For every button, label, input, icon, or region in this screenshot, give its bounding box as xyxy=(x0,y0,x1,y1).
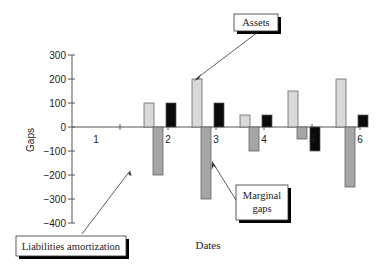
callout-assets: Assets xyxy=(194,14,281,81)
x-category-label: 4 xyxy=(261,134,267,145)
bar-marginal-gaps-4 xyxy=(262,115,272,127)
callout-marginal-arrowhead xyxy=(212,161,217,170)
x-category-label: 2 xyxy=(165,134,171,145)
y-axis: 3002001000−100−200−300−400 xyxy=(43,50,75,229)
bar-liabilities-amortization-4 xyxy=(249,127,259,151)
callout-marginal-text-line1: Marginal xyxy=(243,190,281,201)
callout-liabilities-text: Liabilities amortization xyxy=(22,241,121,252)
gaps-bar-chart: 3002001000−100−200−300−400 123456 Gaps D… xyxy=(0,0,378,274)
bar-assets-2 xyxy=(144,103,154,127)
bar-liabilities-amortization-2 xyxy=(153,127,163,175)
callout-assets-text: Assets xyxy=(242,17,269,28)
bar-assets-6 xyxy=(336,79,346,127)
y-tick-label: 300 xyxy=(49,50,66,61)
bar-marginal-gaps-3 xyxy=(214,103,224,127)
bar-liabilities-amortization-5 xyxy=(297,127,307,139)
callout-marginal-gaps: Marginal gaps xyxy=(212,161,292,223)
y-tick-label: −200 xyxy=(43,170,66,181)
bar-liabilities-amortization-3 xyxy=(201,127,211,199)
y-tick-label: 200 xyxy=(49,74,66,85)
callout-liabilities-arrow xyxy=(82,172,129,234)
callout-marginal-text-line2: gaps xyxy=(252,203,271,214)
callout-liabilities: Liabilities amortization xyxy=(16,170,132,259)
callout-marginal-arrow xyxy=(213,163,236,200)
x-category-label: 3 xyxy=(213,134,219,145)
bar-marginal-gaps-2 xyxy=(166,103,176,127)
bar-marginal-gaps-6 xyxy=(358,115,368,127)
y-tick-label: −300 xyxy=(43,194,66,205)
y-tick-label: 100 xyxy=(49,98,66,109)
category-labels: 123456 xyxy=(93,134,363,145)
bar-assets-4 xyxy=(240,115,250,127)
y-tick-label: −400 xyxy=(43,218,66,229)
x-category-label: 6 xyxy=(357,134,363,145)
x-category-label: 5 xyxy=(309,134,315,145)
bars xyxy=(144,79,368,199)
bar-assets-3 xyxy=(192,79,202,127)
x-category-label: 1 xyxy=(93,134,99,145)
callout-assets-arrow xyxy=(196,32,258,79)
y-tick-label: 0 xyxy=(60,122,66,133)
y-axis-title: Gaps xyxy=(25,128,36,152)
bar-liabilities-amortization-6 xyxy=(345,127,355,187)
y-tick-label: −100 xyxy=(43,146,66,157)
x-axis-title: Dates xyxy=(195,239,220,251)
bar-assets-5 xyxy=(288,91,298,127)
